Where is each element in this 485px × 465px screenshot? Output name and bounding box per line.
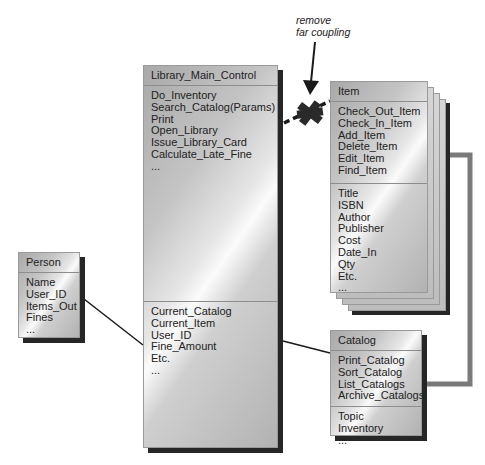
remove-x-icon xyxy=(295,99,324,126)
annotation-layer xyxy=(0,0,485,465)
pointer-line xyxy=(311,42,315,82)
pointer-arrowhead-icon xyxy=(303,80,319,95)
